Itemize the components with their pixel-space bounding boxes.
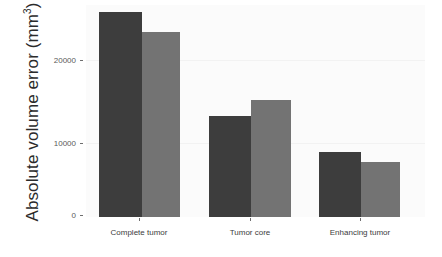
bar-enhancing-tumor-series-1 bbox=[319, 152, 361, 217]
x-tick-mark-tumor-core bbox=[250, 218, 251, 221]
y-tick-label-10000: 10000 bbox=[48, 139, 76, 148]
y-tick-mark-20000 bbox=[80, 60, 83, 61]
bar-tumor-core-series-1 bbox=[209, 116, 251, 217]
chart-figure: Absolute volume error (mm3) 20000 10000 … bbox=[0, 0, 442, 257]
bar-tumor-core-series-2 bbox=[251, 100, 291, 217]
y-axis-title-text: Absolute volume error (mm bbox=[23, 14, 42, 222]
y-axis-title: Absolute volume error (mm3) bbox=[16, 0, 40, 232]
y-tick-label-20000: 20000 bbox=[48, 56, 76, 65]
x-tick-label-complete-tumor: Complete tumor bbox=[89, 228, 189, 237]
x-tick-mark-complete-tumor bbox=[139, 218, 140, 221]
bar-complete-tumor-series-2 bbox=[142, 32, 180, 217]
x-tick-label-enhancing-tumor: Enhancing tumor bbox=[310, 228, 410, 237]
y-axis-title-close: ) bbox=[23, 3, 42, 9]
y-tick-mark-0 bbox=[80, 215, 83, 216]
y-axis-title-exponent: 3 bbox=[22, 8, 33, 14]
x-tick-label-tumor-core: Tumor core bbox=[200, 228, 300, 237]
bar-enhancing-tumor-series-2 bbox=[361, 162, 400, 217]
x-tick-mark-enhancing-tumor bbox=[360, 218, 361, 221]
bar-complete-tumor-series-1 bbox=[99, 12, 142, 217]
y-tick-mark-10000 bbox=[80, 143, 83, 144]
plot-panel bbox=[86, 5, 425, 217]
y-tick-label-0: 0 bbox=[48, 211, 76, 220]
